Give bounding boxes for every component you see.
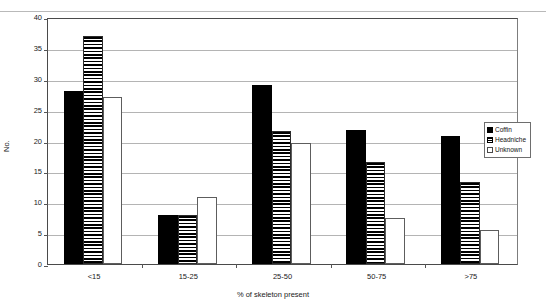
y-axis-title: No. xyxy=(2,140,11,152)
y-axis-tick xyxy=(44,266,48,267)
y-axis-tick xyxy=(44,50,48,51)
y-axis-tick-label: 15 xyxy=(34,169,42,177)
x-axis-tick-label: 15-25 xyxy=(179,272,198,281)
chart-figure: No. 0510152025303540 <1515-2525-5050-75>… xyxy=(0,0,546,306)
x-axis-tick xyxy=(236,264,237,268)
y-axis-tick-label: 20 xyxy=(34,138,42,146)
bar-headniche xyxy=(83,36,103,264)
bar-unknown xyxy=(480,230,500,264)
y-axis-tick xyxy=(44,81,48,82)
x-axis-title: % of skeleton present xyxy=(0,290,546,299)
bar-headniche xyxy=(460,182,480,264)
x-axis-tick-label: 50-75 xyxy=(367,272,386,281)
bar-headniche xyxy=(366,162,386,264)
bar-coffin xyxy=(346,130,366,264)
legend-label: Headniche xyxy=(495,137,526,144)
bar-coffin xyxy=(64,91,84,264)
y-axis-tick-label: 30 xyxy=(34,76,42,84)
legend-swatch-unknown-icon xyxy=(487,147,493,153)
y-axis-tick-label: 35 xyxy=(34,45,42,53)
bar-unknown xyxy=(197,197,217,264)
y-axis-tick xyxy=(44,143,48,144)
bar-coffin xyxy=(158,215,178,264)
bar-unknown xyxy=(385,218,405,264)
y-axis-tick xyxy=(44,19,48,20)
gridline xyxy=(48,81,517,82)
legend-item: Coffin xyxy=(487,125,528,135)
y-axis-tick-label: 10 xyxy=(34,200,42,208)
legend-item: Headniche xyxy=(487,135,528,145)
x-axis-tick-label: 25-50 xyxy=(273,272,292,281)
x-axis-tick xyxy=(142,264,143,268)
legend-item: Unknown xyxy=(487,145,528,155)
y-axis-tick-label: 40 xyxy=(34,14,42,22)
bar-unknown xyxy=(291,143,311,264)
y-axis-tick xyxy=(44,173,48,174)
y-axis-tick xyxy=(44,235,48,236)
y-axis-tick xyxy=(44,204,48,205)
y-axis-tick-label: 5 xyxy=(38,230,42,238)
x-axis-tick-label: <15 xyxy=(88,272,101,281)
y-axis-tick-label: 25 xyxy=(34,107,42,115)
legend-swatch-coffin-icon xyxy=(487,127,493,133)
bar-unknown xyxy=(103,97,123,264)
y-axis-tick-label: 0 xyxy=(38,261,42,269)
legend-label: Unknown xyxy=(495,147,522,154)
legend-swatch-headniche-icon xyxy=(487,137,493,143)
chart-legend: CoffinHeadnicheUnknown xyxy=(484,122,531,158)
top-divider-rule xyxy=(0,11,546,12)
bar-headniche xyxy=(178,215,198,264)
x-axis-tick-label: >75 xyxy=(465,272,478,281)
gridline xyxy=(48,50,517,51)
plot-area xyxy=(47,18,518,265)
bar-headniche xyxy=(272,131,292,264)
y-axis-tick xyxy=(44,112,48,113)
bar-coffin xyxy=(441,136,461,264)
x-axis-tick xyxy=(331,264,332,268)
x-axis-tick xyxy=(425,264,426,268)
legend-label: Coffin xyxy=(495,127,512,134)
bar-coffin xyxy=(252,85,272,264)
